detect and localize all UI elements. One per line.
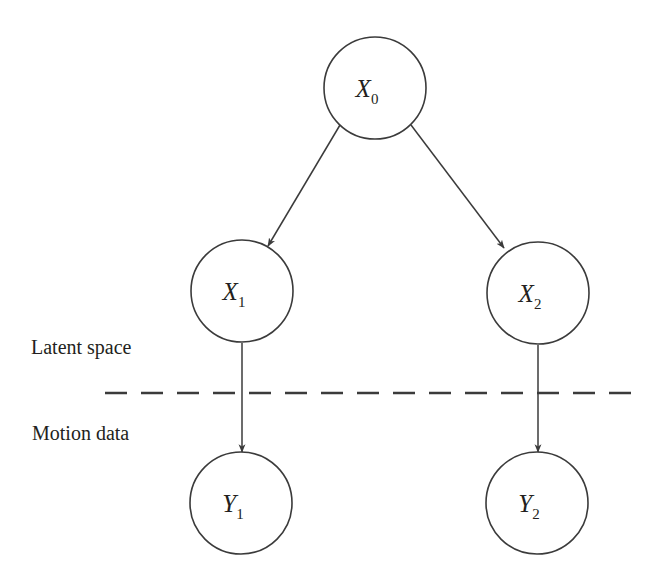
node-y2[interactable]: Y2 [486, 452, 588, 554]
figure-root: X0 X1 X2 Y1 Y2 Latent space Motion data [0, 0, 660, 587]
diagram-canvas: X0 X1 X2 Y1 Y2 [0, 0, 660, 587]
node-circle-y1 [190, 452, 292, 554]
node-x0[interactable]: X0 [324, 37, 426, 139]
node-subscript-x2: 2 [534, 296, 542, 312]
node-y1[interactable]: Y1 [190, 452, 292, 554]
region-label-latent-space: Latent space [31, 337, 132, 357]
region-label-motion-data: Motion data [32, 423, 129, 443]
node-circle-x0 [324, 37, 426, 139]
node-x2[interactable]: X2 [487, 242, 589, 344]
node-subscript-x0: 0 [371, 91, 379, 107]
node-circle-x1 [191, 240, 293, 342]
node-circle-y2 [486, 452, 588, 554]
node-circle-x2 [487, 242, 589, 344]
edge-x0-to-x2 [411, 125, 504, 248]
node-subscript-y1: 1 [236, 506, 244, 522]
node-subscript-x1: 1 [238, 294, 246, 310]
node-x1[interactable]: X1 [191, 240, 293, 342]
edge-x0-to-x1 [268, 125, 340, 246]
node-subscript-y2: 2 [532, 506, 540, 522]
